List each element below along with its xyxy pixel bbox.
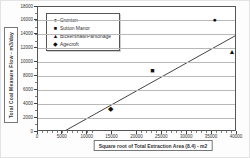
chart-figure: Total Coal Measure Flow - m3/day ●Cronto… (0, 0, 250, 158)
y-tick-label: 8000 (15, 73, 33, 78)
gridline (38, 62, 235, 63)
y-tick-mark (34, 117, 37, 118)
gridline (38, 90, 235, 91)
x-tick-label: 25000 (148, 134, 174, 139)
legend-item-label: Agecroft (60, 41, 79, 47)
y-tick-mark (34, 61, 37, 62)
y-tick-label: 4000 (15, 101, 33, 106)
x-tick-label: 15000 (99, 134, 125, 139)
data-point: ■ (150, 67, 154, 74)
plot-area: ●Cronton■Sutton Manor▲Bickershaw/Parsona… (37, 6, 236, 131)
diamond-marker-icon: ◆ (51, 41, 60, 47)
x-tick-label: 40000 (223, 134, 249, 139)
y-tick-label: 10000 (15, 59, 33, 64)
y-tick-label: 14000 (15, 31, 33, 36)
x-tick-mark (186, 131, 187, 134)
y-tick-label: 18000 (15, 4, 33, 9)
y-tick-mark (34, 89, 37, 90)
x-axis-label: Square root of Total Extraction Area (8.… (99, 143, 208, 149)
y-tick-mark (34, 6, 37, 7)
legend-item: ■Sutton Manor (51, 24, 119, 32)
data-point: ▲ (229, 48, 236, 55)
legend-item-label: Sutton Manor (60, 25, 90, 31)
gridline (38, 48, 235, 49)
y-tick-mark (34, 19, 37, 20)
gridline (38, 104, 235, 105)
y-tick-mark (34, 103, 37, 104)
y-tick-label: 16000 (15, 17, 33, 22)
square-marker-icon: ■ (51, 25, 60, 31)
x-tick-mark (37, 131, 38, 134)
y-tick-label: 6000 (15, 87, 33, 92)
x-tick-label: 35000 (198, 134, 224, 139)
x-tick-mark (61, 131, 62, 134)
x-tick-mark (86, 131, 87, 134)
y-tick-mark (34, 47, 37, 48)
gridline (38, 20, 235, 21)
x-tick-label: 5000 (49, 134, 75, 139)
y-axis-minor-ticks (35, 6, 37, 131)
y-tick-label: 2000 (15, 115, 33, 120)
x-tick-mark (111, 131, 112, 134)
data-point: ● (212, 15, 216, 22)
x-tick-label: 30000 (173, 134, 199, 139)
legend-item: ▲Bickershaw/Parsonage (51, 32, 119, 40)
y-tick-mark (34, 33, 37, 34)
y-tick-label: 0 (15, 129, 33, 134)
x-tick-label: 0 (24, 134, 50, 139)
y-tick-label: 12000 (15, 45, 33, 50)
x-tick-mark (161, 131, 162, 134)
x-tick-label: 20000 (124, 134, 150, 139)
y-tick-mark (34, 75, 37, 76)
gridline (38, 34, 235, 35)
gridline (38, 76, 235, 77)
gridline (38, 118, 235, 119)
x-tick-mark (136, 131, 137, 134)
y-axis-label: Total Coal Measure Flow - m3/day (8, 32, 14, 118)
x-tick-label: 10000 (74, 134, 100, 139)
legend-item: ◆Agecroft (51, 40, 119, 48)
data-point: ◆ (108, 105, 113, 112)
x-axis-label-box: Square root of Total Extraction Area (8.… (94, 140, 213, 151)
x-tick-mark (211, 131, 212, 134)
x-tick-mark (236, 131, 237, 134)
legend-box: ●Cronton■Sutton Manor▲Bickershaw/Parsona… (46, 13, 120, 51)
